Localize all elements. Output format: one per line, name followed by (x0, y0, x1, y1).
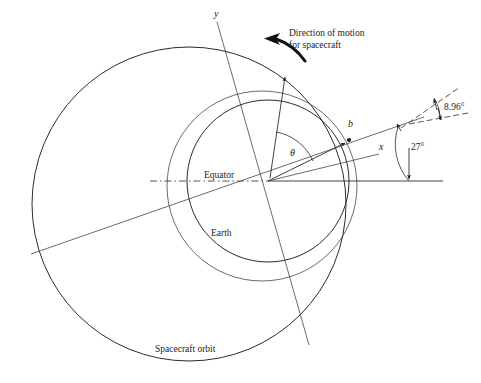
direction-of-motion-line1: Direction of motion (289, 28, 365, 38)
spacecraft-orbit-label: Spacecraft orbit (155, 344, 216, 354)
equator-label: Equator (204, 170, 235, 180)
point-b-marker (347, 138, 351, 142)
figure-root: y x b θ 8.96° 27° Equator Earth Spacecra… (0, 0, 481, 383)
orbit-projection-arc (167, 91, 357, 281)
angle-896-label: 8.96° (444, 102, 465, 112)
radius-vector-to-b (268, 143, 345, 181)
y-axis-label: y (213, 8, 219, 19)
orbit-diagram: y x b θ 8.96° 27° Equator Earth Spacecra… (0, 0, 481, 383)
x-axis-line (268, 154, 379, 181)
y-axis-line (217, 22, 309, 345)
angle-27-arc (395, 127, 409, 181)
x-axis-label: x (378, 141, 384, 152)
inclination-dashed-lower (409, 113, 468, 124)
point-b-label: b (348, 118, 353, 129)
theta-label: θ (290, 147, 295, 158)
direction-of-motion-line2: for spacecraft (289, 40, 341, 50)
earth-label: Earth (211, 228, 232, 238)
spacecraft-orbit-circle (32, 47, 346, 361)
angle-27-label: 27° (411, 142, 425, 152)
